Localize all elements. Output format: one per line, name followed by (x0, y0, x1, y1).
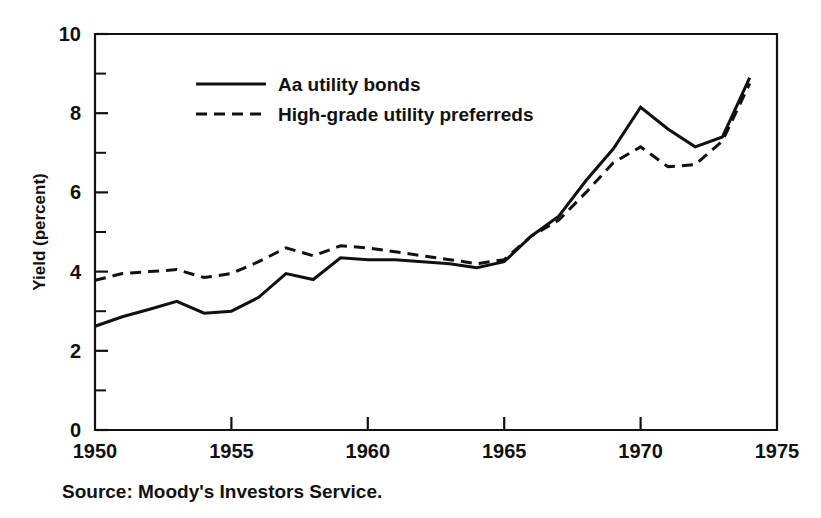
y-tick-label: 4 (70, 261, 82, 283)
y-tick-label: 2 (70, 340, 81, 362)
x-tick-label: 1960 (346, 440, 391, 462)
y-axis-ticks (95, 34, 108, 430)
yield-line-chart: 0246810 195019551960196519701975 Yield (… (0, 0, 821, 518)
chart-legend: Aa utility bondsHigh-grade utility prefe… (196, 74, 534, 125)
legend-label-2: High-grade utility preferreds (278, 104, 534, 125)
x-tick-label: 1950 (73, 440, 118, 462)
y-axis-title-label: Yield (percent) (30, 173, 49, 290)
x-tick-label: 1970 (618, 440, 663, 462)
legend-label-1: Aa utility bonds (278, 74, 421, 95)
y-tick-label: 0 (70, 419, 81, 441)
y-axis-title: Yield (percent) (30, 173, 49, 290)
y-tick-label: 10 (59, 23, 81, 45)
chart-figure: 0246810 195019551960196519701975 Yield (… (0, 0, 821, 518)
plot-frame (95, 34, 777, 430)
source-note: Source: Moody's Investors Service. (62, 481, 382, 502)
x-tick-label: 1955 (209, 440, 254, 462)
x-tick-label: 1965 (482, 440, 527, 462)
x-axis-tick-labels: 195019551960196519701975 (73, 440, 800, 462)
x-tick-label: 1975 (755, 440, 800, 462)
y-tick-label: 8 (70, 102, 81, 124)
y-axis-tick-labels: 0246810 (59, 23, 82, 441)
x-axis-ticks (231, 417, 640, 430)
y-tick-label: 6 (70, 181, 81, 203)
